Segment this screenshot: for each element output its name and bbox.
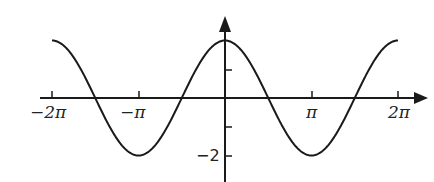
x-tick-label-pi: π (306, 104, 317, 121)
x-tick-label-neg-2pi: −2π (30, 104, 66, 121)
x-tick-label-neg-pi: −π (120, 104, 145, 121)
y-axis-arrow-icon (219, 16, 231, 32)
y-tick-label-neg-2: −2 (196, 148, 220, 164)
y-ticks (225, 70, 232, 156)
x-axis-arrow-icon (414, 92, 428, 104)
x-tick-label-2pi: 2π (388, 104, 410, 121)
